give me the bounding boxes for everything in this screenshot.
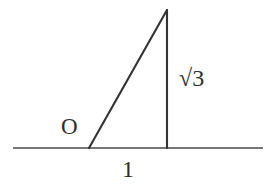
- origin-label: O: [61, 115, 78, 138]
- hypotenuse-line: [89, 10, 167, 148]
- figure-canvas: O √3 1: [0, 0, 278, 189]
- vertical-side-length-label: √3: [179, 66, 204, 90]
- geometry-drawing: [0, 0, 278, 189]
- base-side-length-label: 1: [122, 157, 134, 181]
